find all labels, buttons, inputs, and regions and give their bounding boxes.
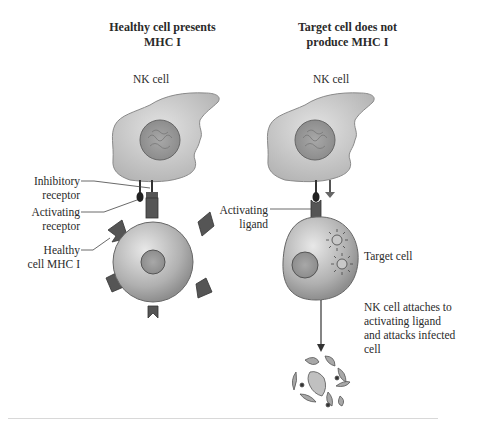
label-line: Healthy — [10, 243, 80, 257]
activating-ligand-icon — [311, 200, 321, 218]
left-title-line1: Healthy cell presents — [100, 20, 225, 35]
label-line: Activating — [200, 203, 268, 217]
label-line: cell MHC I — [10, 257, 80, 271]
label-line: receptor — [10, 219, 80, 233]
left-panel-title: Healthy cell presents MHC I — [100, 20, 225, 50]
left-nk-cell — [112, 93, 219, 182]
target-nucleus-icon — [292, 252, 318, 278]
label-line: ligand — [200, 217, 268, 231]
inhibitory-receptor-icon — [325, 192, 335, 198]
inhibitory-receptor-label: Inhibitory receptor — [10, 174, 80, 202]
caption-line: and attacks infected — [364, 328, 474, 342]
right-panel-title: Target cell does not produce MHC I — [285, 20, 410, 50]
inhibitory-receptor-icon — [137, 192, 144, 202]
nk-nucleus-icon — [295, 120, 335, 160]
right-title-line2: produce MHC I — [285, 35, 410, 50]
lysed-cell-icon — [292, 356, 350, 407]
activating-receptor-icon — [313, 192, 320, 202]
label-line: receptor — [10, 188, 80, 202]
nk-nucleus-icon — [140, 120, 180, 160]
activating-receptor-label: Activating receptor — [10, 205, 80, 233]
caption-line: NK cell attaches to — [364, 300, 474, 314]
healthy-cell — [106, 198, 214, 318]
label-line: Activating — [10, 205, 80, 219]
attack-arrow-icon — [317, 300, 325, 352]
target-cell-label: Target cell — [364, 249, 412, 263]
right-nk-label: NK cell — [313, 72, 349, 86]
right-nk-cell — [267, 93, 374, 182]
left-title-line2: MHC I — [100, 35, 225, 50]
healthy-nucleus-icon — [141, 250, 165, 274]
label-line: Inhibitory — [10, 174, 80, 188]
activating-ligand-label: Activating ligand — [200, 203, 268, 231]
target-cell — [283, 200, 358, 300]
caption-line: cell — [364, 342, 474, 356]
right-receptors — [313, 180, 336, 202]
right-title-line1: Target cell does not — [285, 20, 410, 35]
attack-caption: NK cell attaches to activating ligand an… — [364, 300, 474, 356]
healthy-cell-mhc-label: Healthy cell MHC I — [10, 243, 80, 271]
caption-line: activating ligand — [364, 314, 474, 328]
bottom-divider — [8, 418, 438, 419]
left-nk-label: NK cell — [133, 72, 169, 86]
